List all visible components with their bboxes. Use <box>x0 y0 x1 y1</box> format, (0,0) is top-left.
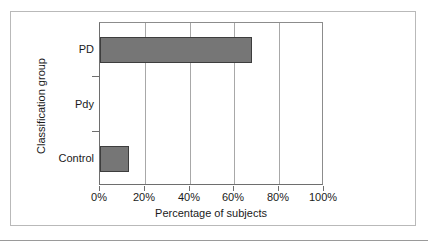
x-tick-label-20pct: 20% <box>120 191 168 204</box>
figure-bottom-rule <box>0 240 428 241</box>
x-tick-label-0pct: 0% <box>75 191 123 204</box>
figure-container: Classification group PDPdyControl Percen… <box>0 0 428 245</box>
x-tick-label-60pct: 60% <box>209 191 257 204</box>
y-axis-tick-labels: PDPdyControl <box>0 22 94 185</box>
y-tick-label-pdy: Pdy <box>4 98 94 110</box>
y-axis-tick <box>92 76 100 77</box>
plot-area <box>99 22 323 185</box>
bar-row <box>100 146 322 172</box>
bar-row <box>100 92 322 118</box>
x-tick-label-40pct: 40% <box>165 191 213 204</box>
x-tick-label-80pct: 80% <box>254 191 302 204</box>
y-tick-label-control: Control <box>4 152 94 164</box>
y-axis-tick <box>92 131 100 132</box>
x-axis-title: Percentage of subjects <box>99 207 323 219</box>
bar-row <box>100 37 322 63</box>
bar-control[interactable] <box>100 146 129 172</box>
x-tick-label-100pct: 100% <box>299 191 347 204</box>
bar-pd[interactable] <box>100 37 252 63</box>
y-tick-label-pd: PD <box>4 43 94 55</box>
